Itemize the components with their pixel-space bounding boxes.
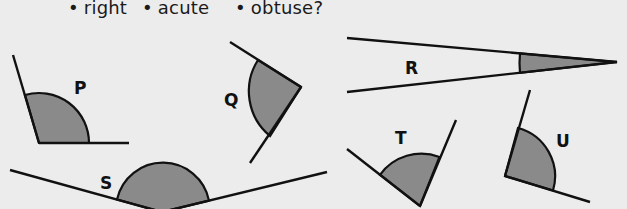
angle-q: Q <box>224 42 301 163</box>
angle-u: U <box>505 90 590 202</box>
angle-label-r: R <box>405 58 418 78</box>
angle-t: T <box>347 120 456 206</box>
angle-r: R <box>347 38 617 92</box>
angle-label-t: T <box>395 128 407 148</box>
angle-label-u: U <box>556 131 570 151</box>
angle-label-s: S <box>100 173 112 193</box>
angle-label-q: Q <box>224 90 238 110</box>
angle-p: P <box>13 55 129 143</box>
angle-label-p: P <box>74 78 86 98</box>
angle-s: S <box>10 163 327 209</box>
angles-diagram: P Q R S T U <box>0 0 627 209</box>
